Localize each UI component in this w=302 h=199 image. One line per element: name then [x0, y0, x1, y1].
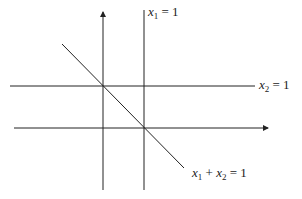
line-x1-plus-x2-eq-1	[62, 44, 184, 168]
label-x1-eq-1: x1 = 1	[148, 4, 179, 21]
label-x1-plus-x2-eq-1: x1 + x2 = 1	[192, 165, 247, 182]
diagram-canvas	[0, 0, 302, 199]
label-x2-eq-1: x2 = 1	[259, 77, 290, 94]
